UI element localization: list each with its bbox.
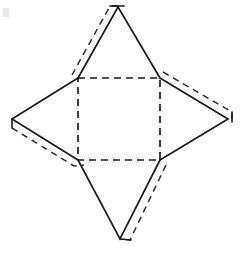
canvas-background [0,0,243,260]
net-diagram-svg [0,0,243,260]
scan-speck [3,8,9,17]
bottom-apex-tick [120,239,131,240]
net-diagram-figure [0,0,243,260]
